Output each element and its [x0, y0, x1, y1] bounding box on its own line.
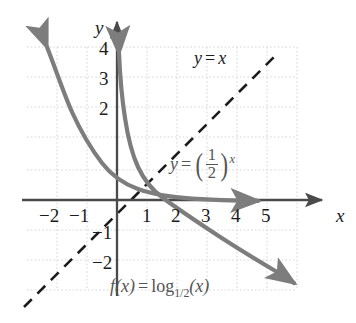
x-tick-label-neg2: −2 [39, 206, 59, 225]
identity-eq: = [202, 48, 218, 68]
x-tick-label-1: 1 [142, 206, 152, 225]
x-tick-label-4: 4 [231, 206, 241, 225]
x-tick-label-neg1: −1 [69, 206, 89, 225]
y-axis-label: y [95, 18, 103, 37]
one-half-fraction: 12 [206, 147, 218, 182]
right-paren: ) [220, 149, 228, 181]
fraction-denominator: 2 [206, 164, 218, 182]
logarithm-eq: = [135, 276, 151, 296]
x-tick-label-5: 5 [261, 206, 271, 225]
exponential-eq: = [178, 154, 194, 174]
x-tick-label-2: 2 [171, 206, 181, 225]
logarithm-curve-label: f(x)=log1/2(x) [110, 277, 209, 299]
logarithm-lhs: f(x) [110, 276, 135, 296]
identity-line-label: y=x [194, 49, 226, 67]
y-tick-label-2: 2 [99, 99, 109, 118]
logarithm-arg: (x) [189, 276, 209, 296]
exponential-lhs: y [170, 154, 178, 174]
y-tick-label-3: 3 [99, 69, 109, 88]
logarithm-fn: log [151, 276, 174, 296]
identity-lhs: y [194, 48, 202, 68]
exponential-exponent: x [229, 152, 234, 166]
graph-figure: y x −2 −1 1 2 3 4 5 4 3 2 −1 −2 y=x y=(1… [0, 0, 356, 323]
y-tick-label-4: 4 [99, 39, 109, 58]
x-tick-label-3: 3 [201, 206, 211, 225]
exponential-curve-label: y=(12)x [170, 148, 235, 183]
y-tick-label-neg2: −2 [92, 253, 112, 272]
logarithm-base: 1/2 [174, 286, 189, 300]
y-tick-label-neg1: −1 [92, 223, 112, 242]
identity-rhs: x [218, 48, 226, 68]
left-paren: ( [196, 149, 204, 181]
x-axis-label: x [336, 206, 344, 225]
fraction-numerator: 1 [206, 147, 218, 164]
